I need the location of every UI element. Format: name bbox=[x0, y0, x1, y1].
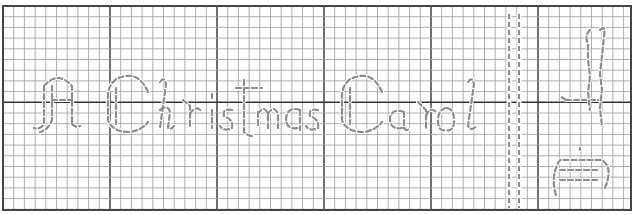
letter-o bbox=[438, 108, 454, 130]
spine-guides bbox=[509, 14, 519, 208]
letter-l bbox=[468, 79, 476, 129]
letter-a bbox=[286, 109, 300, 130]
stitch-pattern-chart bbox=[0, 0, 634, 215]
letter-a-2 bbox=[390, 111, 410, 130]
letter-h bbox=[160, 79, 174, 128]
letter-m bbox=[258, 109, 278, 128]
